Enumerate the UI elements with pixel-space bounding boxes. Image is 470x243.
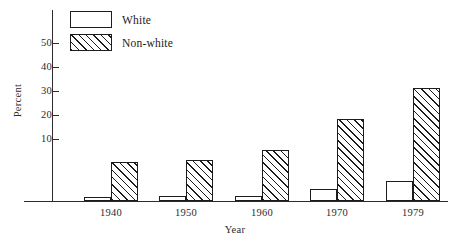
x-tick-label-1970: 1970 <box>312 207 362 218</box>
y-tick-label-10: 10 <box>30 134 52 144</box>
bar-chart: Percent 50 40 30 20 10 White Non-white 1… <box>0 0 470 243</box>
bar-non-white-1979 <box>413 88 440 201</box>
legend-label-non-white: Non-white <box>122 37 173 49</box>
bar-non-white-1940 <box>111 162 138 201</box>
y-tick-40: 40 <box>0 62 52 72</box>
x-tick-label-1960: 1960 <box>237 207 287 218</box>
y-tick-mark-20 <box>53 115 59 116</box>
bar-white-1970 <box>310 189 337 201</box>
x-tick-label-1940: 1940 <box>86 207 136 218</box>
y-axis-title: Percent <box>12 71 23 131</box>
y-tick-label-30: 30 <box>30 86 52 96</box>
legend: White Non-white <box>70 10 173 56</box>
bar-non-white-1950 <box>186 160 213 201</box>
x-tick-label-1979: 1979 <box>388 207 438 218</box>
legend-item-non-white: Non-white <box>70 33 173 52</box>
x-axis-line <box>24 201 448 202</box>
y-tick-mark-40 <box>53 67 59 68</box>
bar-white-1940 <box>84 197 111 201</box>
y-tick-mark-10 <box>53 139 59 140</box>
y-tick-label-50: 50 <box>30 38 52 48</box>
legend-item-white: White <box>70 10 173 29</box>
legend-label-white: White <box>122 14 151 26</box>
legend-swatch-white <box>70 11 112 28</box>
bar-white-1979 <box>386 181 413 201</box>
legend-swatch-non-white <box>70 34 112 51</box>
y-axis-line <box>52 10 53 202</box>
x-tick-label-1950: 1950 <box>161 207 211 218</box>
y-tick-30: 30 <box>0 86 52 96</box>
y-tick-mark-50 <box>53 43 59 44</box>
y-tick-50: 50 <box>0 38 52 48</box>
y-tick-mark-30 <box>53 91 59 92</box>
y-tick-label-40: 40 <box>30 62 52 72</box>
bar-non-white-1960 <box>262 150 289 201</box>
bar-white-1960 <box>235 196 262 201</box>
y-tick-20: 20 <box>0 110 52 120</box>
bar-white-1950 <box>159 196 186 201</box>
x-axis-title: Year <box>0 224 470 235</box>
y-tick-10: 10 <box>0 134 52 144</box>
bar-non-white-1970 <box>337 119 364 201</box>
y-tick-label-20: 20 <box>30 110 52 120</box>
